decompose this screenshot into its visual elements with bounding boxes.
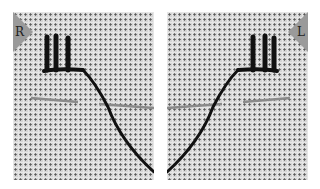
stitch-illustration-left: [167, 12, 308, 180]
left-hand-stitch-panel: L: [167, 12, 308, 180]
right-hand-stitch-panel: R: [13, 12, 154, 180]
needle-icon: [243, 98, 290, 102]
needle-icon: [31, 98, 78, 102]
stitch-illustration-right: [13, 12, 154, 180]
